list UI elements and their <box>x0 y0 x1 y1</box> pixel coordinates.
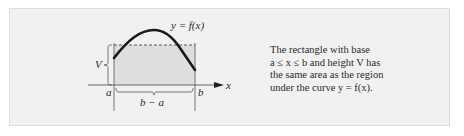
caption-line: under the curve y = f(x). <box>270 82 440 95</box>
caption-line: The rectangle with base <box>270 44 440 57</box>
caption-line: the same area as the region <box>270 69 440 82</box>
curve-label: y = f(x) <box>170 19 204 32</box>
base-brace <box>116 88 193 95</box>
height-brace <box>104 45 112 85</box>
height-label: V <box>95 58 103 70</box>
base-label: b − a <box>140 96 164 108</box>
caption-line: a ≤ x ≤ b and height V has <box>270 57 440 70</box>
left-bound-label: a <box>106 86 112 98</box>
right-bound-label: b <box>198 86 204 98</box>
x-axis-arrow-icon <box>214 82 224 88</box>
axis-label: x <box>225 79 231 91</box>
figure-caption: The rectangle with base a ≤ x ≤ b and he… <box>270 44 440 94</box>
